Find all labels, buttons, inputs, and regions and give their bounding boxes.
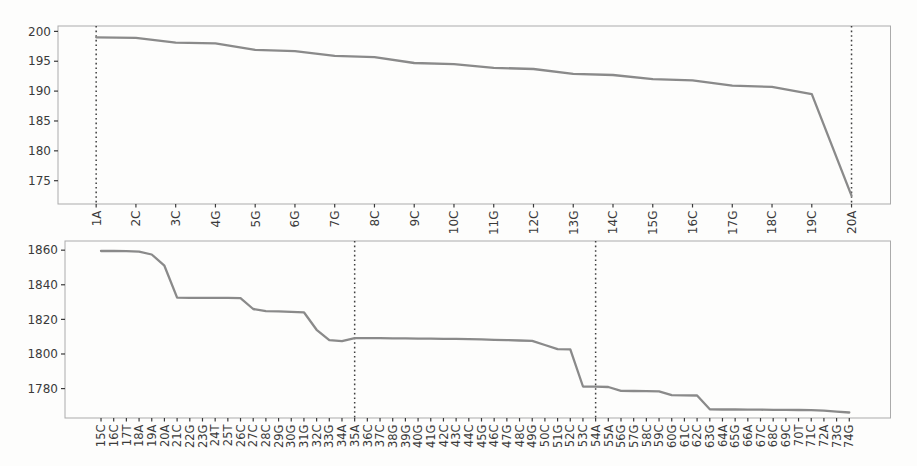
top-chart-series-line [96, 37, 851, 195]
top-chart-x-tick-label: 12C [527, 211, 541, 235]
top-chart-x-tick-label: 8C [368, 211, 382, 227]
top-chart-y-tick-label: 185 [28, 114, 51, 128]
top-chart-x-tick-label: 16C [686, 211, 700, 235]
top-chart-y-tick-label: 200 [28, 25, 51, 39]
top-chart-x-tick-label: 7G [328, 211, 342, 228]
top-chart-x-tick-label: 5G [249, 211, 263, 228]
top-chart-x-tick-label: 19C [805, 211, 819, 235]
top-chart-x-tick-label: 10C [447, 211, 461, 235]
bottom-chart-y-tick-label: 1860 [27, 243, 58, 257]
top-chart-plot-frame [58, 26, 891, 204]
bottom-chart-x-tick-label: 74G [842, 425, 856, 449]
bottom-chart-series-line [101, 251, 849, 413]
top-chart-x-tick-label: 6G [288, 211, 302, 228]
bottom-chart-y-tick-label: 1820 [27, 313, 58, 327]
top-chart-x-tick-label: 20A [845, 210, 859, 234]
top-chart-x-tick-label: 4G [209, 211, 223, 228]
top-chart-x-tick-label: 15G [646, 211, 660, 236]
top-chart-x-tick-label: 14C [606, 211, 620, 235]
top-chart-x-tick-label: 18C [765, 211, 779, 235]
top-chart-x-tick-label: 17G [726, 211, 740, 236]
top-chart-x-tick-label: 13G [567, 211, 581, 236]
bottom-chart-y-tick-label: 1840 [27, 278, 58, 292]
top-chart-x-tick-label: 2C [129, 211, 143, 227]
top-chart-y-tick-label: 180 [28, 144, 51, 158]
top-chart-y-tick-label: 175 [28, 174, 51, 188]
line-chart-figure: 1751801851901952001A2C3C4G5G6G7G8C9C10C1… [0, 0, 917, 466]
top-chart-x-tick-label: 1A [90, 210, 104, 227]
bottom-chart-y-tick-label: 1780 [27, 382, 58, 396]
dual-line-chart-canvas: 1751801851901952001A2C3C4G5G6G7G8C9C10C1… [0, 0, 917, 466]
top-chart-x-tick-label: 11G [487, 211, 501, 236]
bottom-chart-y-tick-label: 1800 [27, 347, 58, 361]
top-chart-x-tick-label: 3C [169, 211, 183, 227]
top-chart-y-tick-label: 195 [28, 54, 51, 68]
top-chart-x-tick-label: 9C [408, 211, 422, 227]
bottom-chart-plot-frame [65, 241, 891, 418]
top-chart-y-tick-label: 190 [28, 84, 51, 98]
